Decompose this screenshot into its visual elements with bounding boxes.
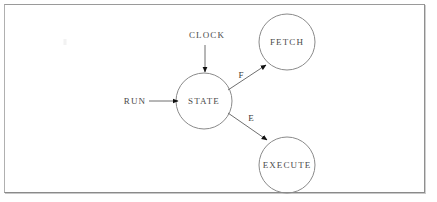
- edge-label-e: E: [248, 113, 254, 123]
- input-label-run: RUN: [124, 96, 146, 106]
- node-label-fetch: FETCH: [270, 37, 304, 47]
- node-label-state: STATE: [188, 96, 220, 106]
- node-label-execute: EXECUTE: [263, 160, 312, 170]
- edge-label-f: F: [238, 70, 243, 80]
- transition-arrow-f: [228, 65, 266, 90]
- input-label-clock: CLOCK: [189, 30, 225, 40]
- diagram-canvas: STATE FETCH EXECUTE CLOCK RUN F E: [0, 0, 437, 202]
